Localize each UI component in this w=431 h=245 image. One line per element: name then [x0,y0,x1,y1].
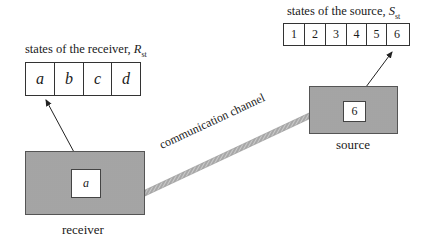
source-state-cell: 4 [347,24,367,45]
source-state-cell: 5 [367,24,387,45]
receiver-states-caption: states of the receiver, Rst [25,42,147,59]
receiver-state-cell: a [26,63,55,95]
receiver-state-cell: b [55,63,84,95]
source-label: source [336,137,370,153]
source-states-table: 1 2 3 4 5 6 [283,23,410,46]
receiver-box: a [25,151,145,215]
communication-channel [145,113,309,196]
source-current-state: 6 [343,101,366,122]
receiver-state-cell: d [112,63,140,95]
source-box: 6 [309,86,398,134]
receiver-states-table: a b c d [25,62,141,96]
source-states-caption: states of the source, Sst [287,4,400,21]
receiver-state-cell: c [84,63,112,95]
receiver-label: receiver [62,222,104,238]
source-state-cell: 6 [387,24,407,45]
source-state-cell: 3 [326,24,347,45]
source-state-cell: 1 [284,24,305,45]
source-state-cell: 2 [305,24,326,45]
receiver-current-state: a [71,169,101,198]
